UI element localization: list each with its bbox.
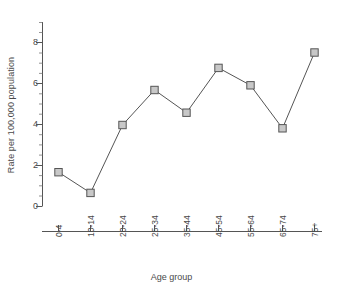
plot-area <box>0 0 343 299</box>
x-tick-label-25-34: 25-34 <box>151 215 160 237</box>
data-point-55-64 <box>247 82 254 89</box>
y-major-ticks <box>36 43 43 207</box>
x-tick-label-20-24: 20-24 <box>119 215 128 237</box>
x-tick-label-35-44: 35-44 <box>183 215 192 237</box>
data-point-45-54 <box>215 64 222 71</box>
chart-figure: Rate per 100,000 population 8 6 4 2 0 <box>0 0 343 299</box>
x-tick-label-45-54: 45-54 <box>215 215 224 237</box>
series-line <box>59 53 315 193</box>
x-axis-title: Age group <box>0 272 343 282</box>
x-tick-label-55-64: 55-64 <box>247 215 256 237</box>
x-tick-label-10-14: 10-14 <box>87 215 96 237</box>
data-point-35-44 <box>183 109 190 116</box>
x-tick-label-75-plus: 75+ <box>311 223 320 237</box>
data-point-10-14 <box>87 189 94 196</box>
data-point-75-plus <box>311 49 318 56</box>
data-point-65-74 <box>279 125 286 132</box>
data-point-0-4 <box>55 169 62 176</box>
data-point-25-34 <box>151 86 158 93</box>
y-minor-ticks <box>39 23 43 197</box>
data-point-20-24 <box>119 121 126 128</box>
x-tick-label-0-4: 0-4 <box>55 225 64 237</box>
x-tick-label-65-74: 65-74 <box>279 215 288 237</box>
